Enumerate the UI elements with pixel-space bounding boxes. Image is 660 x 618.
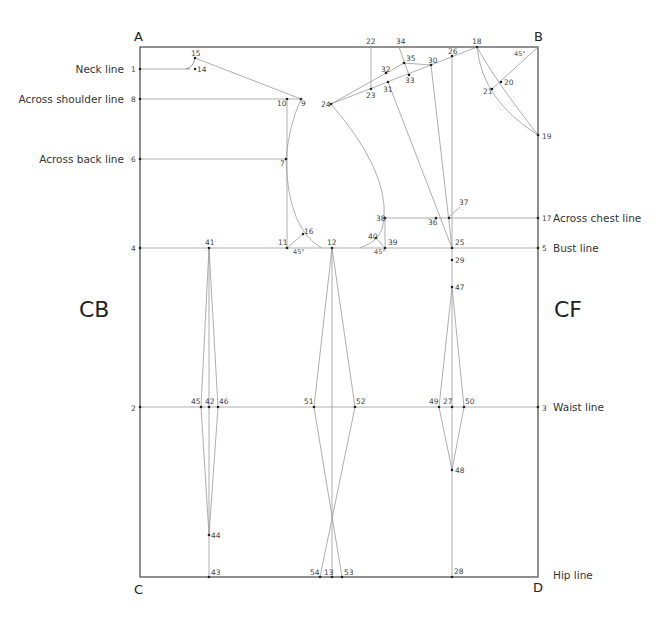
svg-text:31: 31 xyxy=(383,85,393,94)
svg-text:5: 5 xyxy=(542,244,547,253)
angle-label: 45° xyxy=(514,50,526,58)
draft-frame xyxy=(140,47,538,577)
hip-line-label: Hip line xyxy=(553,569,593,581)
angle-label: 45° xyxy=(293,248,305,256)
svg-text:4: 4 xyxy=(131,244,136,253)
svg-text:50: 50 xyxy=(465,397,475,406)
svg-text:41: 41 xyxy=(205,238,215,247)
back-dart xyxy=(201,248,218,535)
bust-line-label: Bust line xyxy=(553,242,599,254)
back-45-line xyxy=(287,234,303,248)
front-dart xyxy=(439,287,464,470)
angle-label: 45° xyxy=(374,248,386,256)
across-shoulder-label: Across shoulder line xyxy=(19,93,124,105)
svg-text:29: 29 xyxy=(455,256,465,265)
points xyxy=(139,46,540,579)
svg-text:46: 46 xyxy=(219,397,229,406)
svg-text:19: 19 xyxy=(542,132,552,141)
pattern-diagram: A B C D CB CF Neck line Across shoulder … xyxy=(0,0,660,618)
svg-text:7: 7 xyxy=(280,159,285,168)
svg-text:36: 36 xyxy=(428,218,438,227)
svg-text:1: 1 xyxy=(131,65,136,74)
corner-b: B xyxy=(534,29,543,44)
svg-text:37: 37 xyxy=(459,198,469,207)
svg-text:32: 32 xyxy=(381,65,391,74)
svg-text:20: 20 xyxy=(504,78,514,87)
svg-text:10: 10 xyxy=(277,99,287,108)
svg-text:35: 35 xyxy=(406,54,416,63)
center-back-label: CB xyxy=(79,297,109,322)
svg-text:6: 6 xyxy=(131,155,136,164)
svg-text:44: 44 xyxy=(211,531,221,540)
svg-text:14: 14 xyxy=(197,65,207,74)
svg-text:54: 54 xyxy=(310,568,320,577)
svg-text:33: 33 xyxy=(405,76,415,85)
svg-text:16: 16 xyxy=(304,227,314,236)
svg-text:39: 39 xyxy=(388,238,398,247)
front-armhole-curve xyxy=(331,104,384,248)
center-front-label: CF xyxy=(554,297,582,322)
svg-text:15: 15 xyxy=(191,49,201,58)
corner-c: C xyxy=(134,582,143,597)
svg-text:24: 24 xyxy=(321,100,331,109)
svg-text:3: 3 xyxy=(542,404,547,413)
corner-a: A xyxy=(134,29,143,44)
svg-text:11: 11 xyxy=(278,238,288,247)
svg-text:53: 53 xyxy=(344,568,354,577)
svg-text:28: 28 xyxy=(454,567,464,576)
svg-text:26: 26 xyxy=(448,47,458,56)
svg-text:27: 27 xyxy=(443,397,453,406)
svg-text:13: 13 xyxy=(324,568,334,577)
svg-text:18: 18 xyxy=(472,37,482,46)
svg-text:48: 48 xyxy=(455,466,465,475)
svg-text:21: 21 xyxy=(483,87,493,96)
waist-line-label: Waist line xyxy=(553,401,604,413)
point-labels: 1 2 3 4 5 6 7 8 9 10 11 12 13 14 15 16 1… xyxy=(131,37,552,577)
side-dart-52 xyxy=(332,248,355,407)
svg-text:51: 51 xyxy=(304,397,314,406)
pointer-37 xyxy=(449,207,460,217)
svg-text:40: 40 xyxy=(368,232,378,241)
back-neck-curve xyxy=(186,58,195,69)
svg-text:42: 42 xyxy=(205,397,215,406)
svg-text:49: 49 xyxy=(429,397,439,406)
svg-text:23: 23 xyxy=(366,91,376,100)
neck-line-label: Neck line xyxy=(76,63,124,75)
side-dart-51 xyxy=(314,248,332,407)
svg-text:43: 43 xyxy=(211,568,221,577)
svg-text:34: 34 xyxy=(396,37,406,46)
svg-text:38: 38 xyxy=(376,214,386,223)
svg-text:25: 25 xyxy=(455,238,465,247)
svg-text:12: 12 xyxy=(327,238,337,247)
back-shoulder-seam xyxy=(195,58,301,99)
svg-text:52: 52 xyxy=(356,397,366,406)
shoulder-dart-top xyxy=(404,63,431,65)
back-armhole-curve xyxy=(286,99,322,248)
svg-text:8: 8 xyxy=(131,95,136,104)
corner-d: D xyxy=(533,580,543,595)
svg-text:17: 17 xyxy=(542,214,552,223)
svg-text:47: 47 xyxy=(455,283,465,292)
svg-text:9: 9 xyxy=(301,99,306,108)
across-back-label: Across back line xyxy=(39,153,124,165)
svg-text:22: 22 xyxy=(366,37,376,46)
across-chest-label: Across chest line xyxy=(553,212,641,224)
svg-text:2: 2 xyxy=(131,404,136,413)
svg-text:45: 45 xyxy=(191,397,201,406)
svg-text:30: 30 xyxy=(428,56,438,65)
